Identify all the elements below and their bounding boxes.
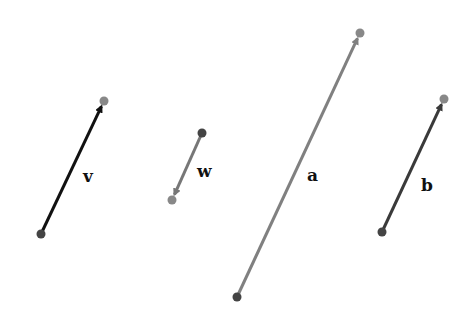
vector-w-label: w bbox=[196, 161, 212, 181]
vector-w-head-point bbox=[168, 196, 177, 205]
vector-b-label: b bbox=[421, 175, 433, 195]
vector-v-tail-point bbox=[37, 230, 46, 239]
vector-v-head-point bbox=[100, 97, 109, 106]
vector-w: w bbox=[168, 129, 213, 205]
vector-v-label: v bbox=[82, 166, 94, 186]
vector-b: b bbox=[378, 95, 449, 237]
vector-a-tail-point bbox=[233, 293, 242, 302]
vector-b-tail-point bbox=[378, 228, 387, 237]
vector-a: a bbox=[233, 29, 365, 302]
vector-a-head-point bbox=[356, 29, 365, 38]
vector-v: v bbox=[37, 97, 109, 239]
vector-b-head-point bbox=[440, 95, 449, 104]
vector-w-tail-point bbox=[198, 129, 207, 138]
vector-diagram: vwab bbox=[0, 0, 474, 324]
vector-a-arrow bbox=[237, 38, 357, 297]
vector-a-label: a bbox=[307, 165, 318, 185]
vector-b-arrow bbox=[382, 104, 441, 232]
